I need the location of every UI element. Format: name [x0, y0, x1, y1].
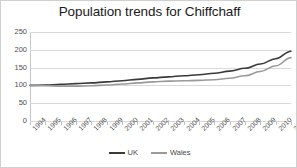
y-tick-label: 100	[3, 81, 27, 89]
legend-item-uk[interactable]: UK	[109, 149, 138, 157]
x-tick-mark	[30, 122, 31, 125]
x-tick-mark	[245, 122, 246, 125]
x-tick-mark	[214, 122, 215, 125]
x-tick-mark	[122, 122, 123, 125]
legend-swatch-icon	[151, 152, 167, 154]
series-line-uk	[30, 51, 291, 85]
chart-container: Population trends for Chiffchaff 0501001…	[0, 0, 297, 168]
y-tick-label: 150	[3, 64, 27, 72]
x-tick-mark	[61, 122, 62, 125]
x-tick-mark	[153, 122, 154, 125]
x-tick-mark	[137, 122, 138, 125]
plot-area	[30, 32, 291, 121]
x-tick-mark	[230, 122, 231, 125]
series-line-wales	[30, 58, 291, 86]
y-tick-label: 250	[3, 28, 27, 36]
legend-label: UK	[128, 149, 138, 157]
x-tick-mark	[168, 122, 169, 125]
chart-title: Population trends for Chiffchaff	[1, 4, 297, 19]
x-tick-mark	[45, 122, 46, 125]
y-tick-label: 0	[3, 117, 27, 125]
series-lines	[30, 32, 291, 121]
y-tick-label: 50	[3, 99, 27, 107]
x-axis-labels: 1994199519961997199819992000200120022003…	[30, 122, 291, 148]
legend-item-wales[interactable]: Wales	[151, 149, 191, 157]
x-tick-mark	[91, 122, 92, 125]
x-tick-mark	[184, 122, 185, 125]
x-tick-mark	[199, 122, 200, 125]
x-tick-mark	[107, 122, 108, 125]
x-tick-mark	[260, 122, 261, 125]
x-tick-mark	[276, 122, 277, 125]
x-tick-mark	[76, 122, 77, 125]
y-axis-labels: 050100150200250	[1, 1, 27, 168]
y-tick-label: 200	[3, 46, 27, 54]
chart-legend: UKWales	[1, 149, 297, 157]
x-tick-mark	[291, 122, 292, 125]
legend-label: Wales	[170, 149, 191, 157]
legend-swatch-icon	[109, 152, 125, 154]
x-tick-label: 2011	[292, 116, 297, 132]
